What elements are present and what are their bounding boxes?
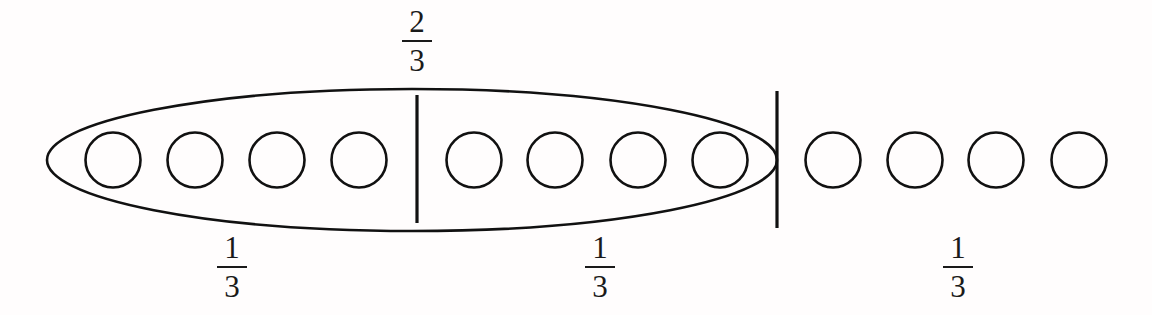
unit-circle[interactable] — [1052, 133, 1107, 188]
fraction-denominator: 3 — [588, 271, 612, 302]
unit-circle[interactable] — [528, 133, 583, 188]
figure-canvas: 23131313 — [0, 0, 1152, 315]
fraction-bar — [217, 266, 247, 268]
unit-circle[interactable] — [806, 133, 861, 188]
fraction-one-third-left: 13 — [217, 232, 247, 302]
fraction-one-third-middle: 13 — [585, 232, 615, 302]
fraction-denominator: 3 — [220, 271, 244, 302]
unit-circle[interactable] — [250, 133, 305, 188]
fraction-denominator: 3 — [946, 271, 970, 302]
fraction-denominator: 3 — [405, 45, 429, 76]
fraction-bar — [943, 266, 973, 268]
group-ellipse — [47, 89, 777, 231]
fraction-numerator: 2 — [405, 6, 429, 37]
unit-circle[interactable] — [969, 133, 1024, 188]
fraction-numerator: 1 — [588, 232, 612, 263]
unit-circle[interactable] — [447, 133, 502, 188]
unit-circle[interactable] — [611, 133, 666, 188]
group-ellipse-layer — [47, 89, 777, 231]
diagram-svg — [0, 0, 1152, 315]
unit-circle[interactable] — [888, 133, 943, 188]
fraction-bar — [585, 266, 615, 268]
unit-circle[interactable] — [693, 133, 748, 188]
fraction-numerator: 1 — [220, 232, 244, 263]
unit-circle[interactable] — [168, 133, 223, 188]
circle-layer — [86, 133, 1107, 188]
fraction-one-third-right: 13 — [943, 232, 973, 302]
unit-circle[interactable] — [332, 133, 387, 188]
fraction-two-thirds: 23 — [402, 6, 432, 76]
unit-circle[interactable] — [86, 133, 141, 188]
fraction-numerator: 1 — [946, 232, 970, 263]
fraction-bar — [402, 40, 432, 42]
divider-layer — [417, 91, 777, 228]
